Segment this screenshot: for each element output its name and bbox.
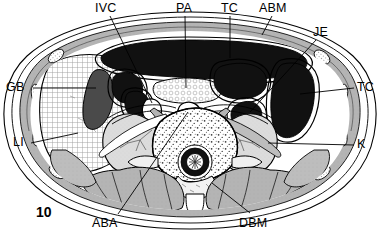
- figure-number: 10: [36, 205, 52, 219]
- label-aba: ABA: [92, 217, 118, 230]
- pancreas: [153, 78, 221, 103]
- label-ivc: IVC: [95, 2, 116, 15]
- label-li: LI: [13, 136, 24, 149]
- label-je: JE: [313, 26, 328, 39]
- label-tc-right: TC: [357, 81, 374, 94]
- label-gb: GB: [6, 81, 24, 94]
- label-k: K: [357, 138, 366, 151]
- label-tc-top: TC: [221, 2, 238, 15]
- label-pa: PA: [176, 2, 192, 15]
- label-dbm: DBM: [239, 217, 267, 230]
- figure-page: IVC PA TC ABM JE TC K GB LI ABA DBM 10: [0, 0, 381, 237]
- label-abm: ABM: [259, 2, 287, 15]
